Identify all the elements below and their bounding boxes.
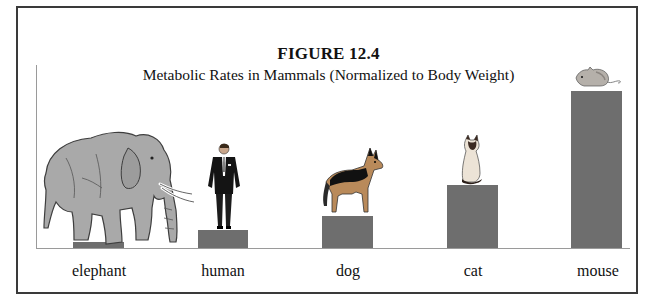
bar-dog	[322, 216, 373, 248]
mouse-icon	[574, 64, 622, 90]
bar-human	[198, 230, 248, 248]
dog-icon	[320, 146, 386, 216]
elephant-icon	[36, 128, 198, 248]
x-axis	[36, 248, 630, 249]
bar-cat	[447, 185, 498, 248]
human-icon	[204, 142, 244, 230]
cat-icon	[458, 135, 484, 185]
bar-mouse	[571, 91, 622, 248]
figure-title: FIGURE 12.4	[0, 44, 657, 64]
label-cat: cat	[428, 262, 518, 280]
label-mouse: mouse	[553, 262, 643, 280]
label-elephant: elephant	[54, 262, 144, 280]
label-dog: dog	[303, 262, 393, 280]
figure-subtitle: Metabolic Rates in Mammals (Normalized t…	[0, 66, 657, 84]
label-human: human	[178, 262, 268, 280]
